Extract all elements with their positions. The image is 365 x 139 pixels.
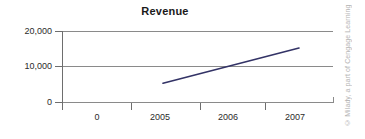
revenue-line-chart-figure: Revenue 20,000 10,000 0 0 2005 2006 2007… <box>0 0 365 139</box>
revenue-series-line <box>0 0 365 139</box>
revenue-trend-line <box>163 48 299 83</box>
copyright-credit: © Milady, a part of Cengage Learning <box>344 14 358 126</box>
